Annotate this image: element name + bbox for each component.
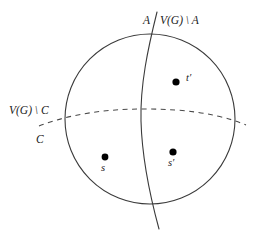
label-set-not-a: V(G) \ A	[160, 15, 199, 27]
boundary-circle	[65, 34, 235, 204]
partition-diagram: A V(G) \ A V(G) \ C C s s′ t′	[0, 0, 255, 236]
point-s	[102, 154, 109, 161]
label-point-s: s	[101, 163, 105, 174]
label-set-not-c: V(G) \ C	[9, 105, 49, 117]
point-s-prime	[169, 148, 176, 155]
label-point-s-prime: s′	[168, 158, 174, 169]
vertical-separator-curve	[141, 12, 159, 229]
point-t-prime	[172, 78, 179, 85]
label-point-t-prime: t′	[186, 73, 191, 84]
label-set-a: A	[143, 15, 150, 27]
diagram-canvas	[0, 0, 255, 236]
dashed-separator-arc	[39, 109, 246, 126]
label-set-c: C	[36, 134, 44, 146]
